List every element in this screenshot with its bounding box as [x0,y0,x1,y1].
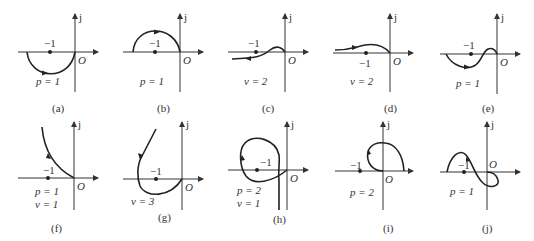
minus-one-label: −1 [43,164,55,176]
critical-point [469,52,473,56]
param-label: p = 1 [455,77,480,89]
panel-caption: (a) [52,102,65,115]
critical-point [255,168,259,172]
param-label: p = 2 [236,184,261,196]
nyquist-curve [368,143,404,171]
param-label: v = 2 [244,75,268,87]
panel-j: j O −1 p = 1 (j) [440,118,520,235]
origin-label: O [77,180,85,192]
nyquist-curve [27,52,75,74]
direction-arrow-icon [352,45,358,50]
origin-label: O [290,172,298,184]
nyquist-curve [138,129,182,194]
critical-point [46,176,50,180]
param-label: p = 2 [349,186,374,198]
axis-j-label: j [78,11,82,23]
minus-one-label: −1 [150,165,162,177]
nyquist-plots-figure: j O −1 p = 1 (a) j O −1 p = 1 (b) j O −1… [0,0,534,241]
panel-i: j O −1 p = 2 (i) [335,118,413,235]
axis-j-label: j [500,11,504,23]
critical-point [364,51,368,55]
nyquist-curve [446,48,497,67]
origin-label: O [288,54,296,66]
panel-g: j O −1 v = 3 (g) [123,118,203,224]
axis-j-label: j [288,11,292,23]
param-label: v = 1 [35,198,58,210]
panel-c: j O −1 v = 2 (c) [228,11,308,115]
minus-one-label: −1 [149,37,161,49]
param-label: p = 1 [139,75,164,87]
axis-j-label: j [290,118,294,130]
panel-caption: (c) [262,102,275,115]
nyquist-curve [335,44,390,53]
origin-label: O [183,54,191,66]
param-label: p = 1 [34,185,59,197]
param-label: p = 1 [35,75,60,87]
origin-label: O [78,54,86,66]
panel-b: j O −1 p = 1 (b) [123,11,203,115]
panel-d: j O −1 v = 2 (d) [333,11,413,115]
axis-j-label: j [490,118,494,130]
direction-arrow-icon [245,56,251,61]
param-label: v = 2 [350,75,374,87]
panel-caption: (h) [273,213,286,226]
axis-j-label: j [386,118,390,130]
origin-label: O [489,158,497,170]
axis-j-label: j [77,118,81,130]
origin-label: O [185,181,193,193]
origin-label: O [385,173,393,185]
minus-one-label: −1 [260,156,272,168]
minus-one-label: −1 [44,37,56,49]
panel-e: j O −1 p = 1 (e) [440,11,520,115]
minus-one-label: −1 [458,159,470,171]
minus-one-label: −1 [359,57,371,69]
panel-a: j O −1 p = 1 (a) [18,11,98,115]
direction-arrow-icon [464,65,470,70]
axis-j-label: j [393,11,397,23]
panel-caption: (i) [383,222,394,235]
minus-one-label: −1 [350,159,362,171]
axis-j-label: j [185,118,189,130]
minus-one-label: −1 [248,37,260,49]
critical-point [153,50,157,54]
panel-h: j O −1 p = 2 v = 1 (h) [228,118,308,226]
axis-j-label: j [183,11,187,23]
critical-point [154,177,158,181]
origin-label: O [500,56,508,68]
panel-caption: (j) [482,222,493,235]
origin-label: O [393,55,401,67]
param-label: v = 1 [237,197,260,209]
panel-caption: (f) [51,222,62,235]
critical-point [48,50,52,54]
panel-caption: (g) [158,211,171,224]
panel-caption: (d) [384,102,397,115]
panel-f: j O −1 p = 1 v = 1 (f) [18,118,98,235]
param-label: p = 1 [449,185,474,197]
critical-point [254,50,258,54]
param-label: v = 3 [131,195,155,207]
panel-caption: (e) [482,102,495,115]
minus-one-label: −1 [463,39,475,51]
panel-caption: (b) [157,102,170,115]
